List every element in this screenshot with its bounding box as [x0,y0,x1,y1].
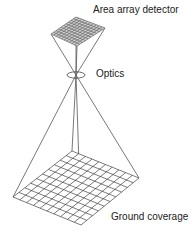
ground-coverage-label: Ground coverage [111,211,188,222]
sensor-geometry-diagram [0,0,196,235]
detector-label: Area array detector [93,4,179,15]
optics-label: Optics [96,68,124,79]
